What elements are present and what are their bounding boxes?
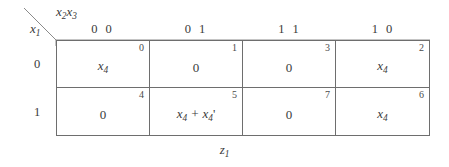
cell-value: x4: [377, 59, 387, 75]
cell-value: 0: [193, 61, 200, 74]
cell-value: 0: [286, 108, 293, 121]
cell-minterm-index: 5: [232, 89, 237, 100]
kmap-cell[interactable]: 1 0: [150, 41, 243, 88]
cell-minterm-index: 1: [232, 42, 237, 53]
kmap-cell[interactable]: 0 x4: [57, 41, 150, 88]
row-header-0: 0: [20, 40, 54, 88]
cell-minterm-index: 3: [325, 42, 330, 53]
cell-minterm-index: 4: [139, 89, 144, 100]
kmap-cell[interactable]: 7 0: [243, 88, 336, 135]
row-header-column: 0 1: [20, 40, 54, 136]
cell-minterm-index: 6: [419, 89, 424, 100]
figure-caption: z1: [0, 143, 449, 159]
cell-value: 0: [100, 108, 107, 121]
kmap-cell[interactable]: 6 x4: [336, 88, 429, 135]
kmap-cell[interactable]: 3 0: [243, 41, 336, 88]
column-header-11: 1 1: [243, 20, 337, 38]
kmap-cell[interactable]: 5 x4 + x4': [150, 88, 243, 135]
cell-value: 0: [286, 61, 293, 74]
column-header-00: 0 0: [56, 20, 150, 38]
column-variable-label: x2x3: [56, 5, 77, 21]
cell-value: x4: [98, 59, 108, 75]
column-header-10: 1 0: [337, 20, 431, 38]
cell-minterm-index: 2: [419, 42, 424, 53]
cell-minterm-index: 0: [139, 42, 144, 53]
row-variable-label: x1: [30, 22, 40, 38]
cell-minterm-index: 7: [325, 89, 330, 100]
cell-value: x4: [377, 107, 387, 123]
kmap-cell[interactable]: 2 x4: [336, 41, 429, 88]
row-header-1: 1: [20, 88, 54, 136]
kmap-cell[interactable]: 4 0: [57, 88, 150, 135]
karnaugh-map-figure: x2x3 x1 0 0 0 1 1 1 1 0 0 1 0 x4 1 0 3 0…: [0, 0, 449, 167]
column-header-row: 0 0 0 1 1 1 1 0: [56, 20, 430, 38]
column-header-01: 0 1: [150, 20, 244, 38]
cell-value: x4 + x4': [177, 107, 216, 123]
kmap-grid: 0 x4 1 0 3 0 2 x4 4 0 5 x4 + x4' 7 0 6: [56, 40, 430, 136]
